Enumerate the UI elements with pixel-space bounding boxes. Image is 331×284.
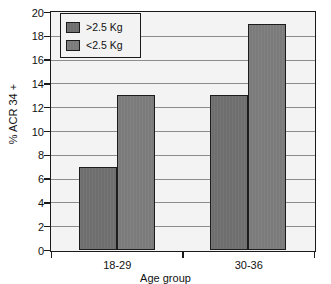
legend-swatch-series-0 bbox=[66, 22, 80, 33]
y-axis-tick-label: 0 bbox=[2, 245, 44, 257]
legend-label-series-1: <2.5 Kg bbox=[86, 39, 123, 51]
bar bbox=[117, 95, 155, 250]
x-axis-tick-label: 18-29 bbox=[103, 259, 131, 271]
y-axis-tick-label: 2 bbox=[2, 221, 44, 233]
legend-swatch-series-1 bbox=[66, 40, 80, 51]
y-axis-title: % ACR 34 + bbox=[7, 54, 19, 174]
x-axis-tick bbox=[182, 252, 184, 258]
x-axis-tick bbox=[51, 252, 53, 258]
x-axis-tick bbox=[314, 252, 316, 258]
bar-chart: 02468101214161820 % ACR 34 + 18-2930-36 … bbox=[0, 0, 331, 284]
bar bbox=[79, 167, 117, 250]
bar bbox=[210, 95, 248, 250]
x-axis-title: Age group bbox=[0, 272, 331, 284]
legend: >2.5 Kg <2.5 Kg bbox=[60, 13, 141, 58]
y-axis-tick-label: 6 bbox=[2, 173, 44, 185]
y-axis-tick-label: 20 bbox=[2, 7, 44, 19]
legend-label-series-0: >2.5 Kg bbox=[86, 21, 123, 33]
bar bbox=[248, 24, 286, 250]
y-axis-tick-label: 18 bbox=[2, 30, 44, 42]
legend-item: <2.5 Kg bbox=[66, 36, 135, 54]
y-axis-tick-label: 4 bbox=[2, 197, 44, 209]
x-axis-tick-label: 30-36 bbox=[235, 259, 263, 271]
legend-item: >2.5 Kg bbox=[66, 18, 135, 36]
